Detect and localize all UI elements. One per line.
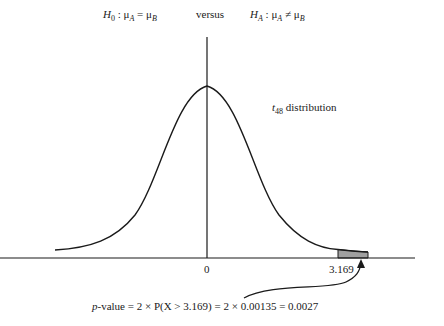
arrow-head — [357, 259, 365, 268]
tick-zero: 0 — [204, 263, 210, 275]
t-distribution-plot — [0, 0, 444, 326]
tick-critical-value: 3.169 — [329, 263, 354, 275]
curve-label: t48 distribution — [272, 101, 337, 116]
p-value-formula: p-value = 2 × P(X > 3.169) = 2 × 0.00135… — [92, 300, 318, 312]
